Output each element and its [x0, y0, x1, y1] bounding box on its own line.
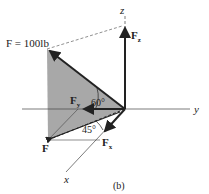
angle-60-label: 60°: [91, 98, 105, 108]
z-axis-label: z: [120, 5, 124, 16]
f-point-label: F: [42, 143, 49, 154]
x-axis-label: x: [64, 174, 69, 185]
caption: (b): [113, 181, 125, 191]
y-axis-label: y: [194, 104, 199, 115]
fz-label: Fz: [131, 30, 141, 44]
fx-label: Fx: [102, 137, 112, 151]
angle-45-label: 45°: [82, 125, 96, 135]
force-label: F = 100lb: [6, 38, 49, 49]
fy-label: Fy: [70, 95, 80, 109]
